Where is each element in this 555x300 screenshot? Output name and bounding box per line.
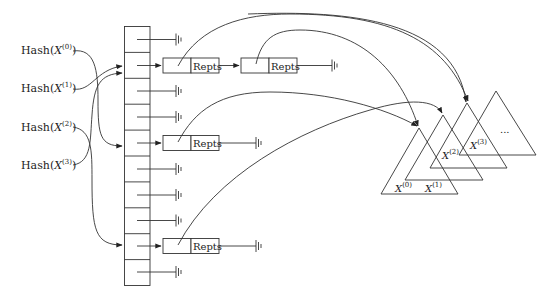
chain-row-5: Repts [137, 136, 261, 151]
pointer-row2-node1-to-tree-3 [178, 14, 468, 101]
pointer-row5-node-to-tree-0 [178, 92, 417, 142]
svg-text:Repts: Repts [193, 241, 222, 252]
svg-text:Hash(X(1)): Hash(X(1)) [21, 81, 76, 95]
svg-text:Hash(X(0)): Hash(X(0)) [21, 43, 76, 57]
chain-row-2: Repts Repts [137, 58, 337, 73]
hash-label-1: Hash(X(1)) [21, 81, 76, 95]
svg-text:Hash(X(3)): Hash(X(3)) [21, 158, 76, 172]
list-node: Repts [241, 58, 300, 73]
list-node: Repts [163, 239, 222, 254]
hash-arrow-0 [73, 51, 122, 146]
hash-arrow-2 [73, 127, 122, 245]
hash-diagram: Hash(X(0)) Hash(X(1)) Hash(X(2)) Hash(X(… [0, 0, 555, 300]
tree-label-1: X(1) [424, 181, 442, 194]
list-node: Repts [163, 136, 222, 151]
svg-text:Repts: Repts [271, 61, 300, 72]
hash-label-3: Hash(X(3)) [21, 158, 76, 172]
svg-text:...: ... [500, 124, 510, 135]
hash-label-2: Hash(X(2)) [21, 120, 76, 134]
svg-text:Repts: Repts [193, 61, 222, 72]
svg-text:Repts: Repts [193, 138, 222, 149]
tree-label-2: X(2) [441, 148, 459, 161]
pointer-row2-node2-to-tree-2 [256, 30, 418, 126]
tree-0 [381, 128, 458, 194]
svg-text:Hash(X(2)): Hash(X(2)) [21, 120, 76, 134]
list-node: Repts [163, 58, 222, 73]
chain-row-9: Repts [137, 239, 261, 254]
hash-arrow-3 [73, 73, 122, 165]
tree-label-0: X(0) [394, 181, 412, 194]
pointer-row9-node-to-tree-1 [178, 102, 442, 245]
hash-label-0: Hash(X(0)) [21, 43, 76, 57]
